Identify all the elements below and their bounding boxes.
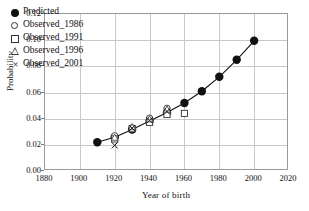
y-tick-mark <box>41 92 44 93</box>
cross-icon: × <box>9 57 22 70</box>
legend-label: Observed_1991 <box>23 32 83 43</box>
marker-glyph <box>11 47 19 55</box>
series-observed_1986 <box>112 105 170 139</box>
x-axis-title: Year of birth <box>44 190 288 200</box>
data-point <box>215 73 223 81</box>
legend-label: Observed_1996 <box>23 45 83 56</box>
data-point <box>250 37 258 45</box>
chart-figure: 0.000.020.040.060.080.100.12 18801900192… <box>0 0 309 211</box>
data-point <box>233 56 241 64</box>
marker-glyph <box>11 35 19 43</box>
series-predicted <box>93 37 258 147</box>
y-tick-mark <box>41 118 44 119</box>
legend-label: Observed_1986 <box>23 19 83 30</box>
data-point <box>198 87 206 95</box>
marker-glyph <box>11 9 19 17</box>
legend-label: Observed_2001 <box>23 58 83 69</box>
data-point <box>93 138 101 146</box>
open-square-icon <box>9 31 22 44</box>
x-axis-ticks: 18801900192019401960198020002020 <box>44 171 289 187</box>
data-point <box>180 99 188 107</box>
open-triangle-icon <box>9 44 22 57</box>
legend-item: Observed_1996 <box>9 44 83 57</box>
filled-circle-icon <box>9 5 22 18</box>
legend-item: Observed_1986 <box>9 18 83 31</box>
y-tick-label: 0.04 <box>1 114 41 123</box>
legend-item: Predicted <box>9 5 83 18</box>
open-circle-icon <box>9 18 22 31</box>
marker-glyph: × <box>10 59 21 70</box>
chart-legend: PredictedObserved_1986Observed_1991Obser… <box>9 5 83 70</box>
legend-label: Predicted <box>23 6 59 17</box>
data-point <box>112 142 118 148</box>
data-point <box>181 110 187 116</box>
x-tick-label: 2020 <box>268 174 308 183</box>
series-observed_2001 <box>112 108 170 148</box>
y-tick-mark <box>41 144 44 145</box>
legend-item: Observed_1991 <box>9 31 83 44</box>
y-tick-label: 0.02 <box>1 140 41 149</box>
marker-glyph <box>11 22 18 29</box>
legend-item: ×Observed_2001 <box>9 57 83 70</box>
